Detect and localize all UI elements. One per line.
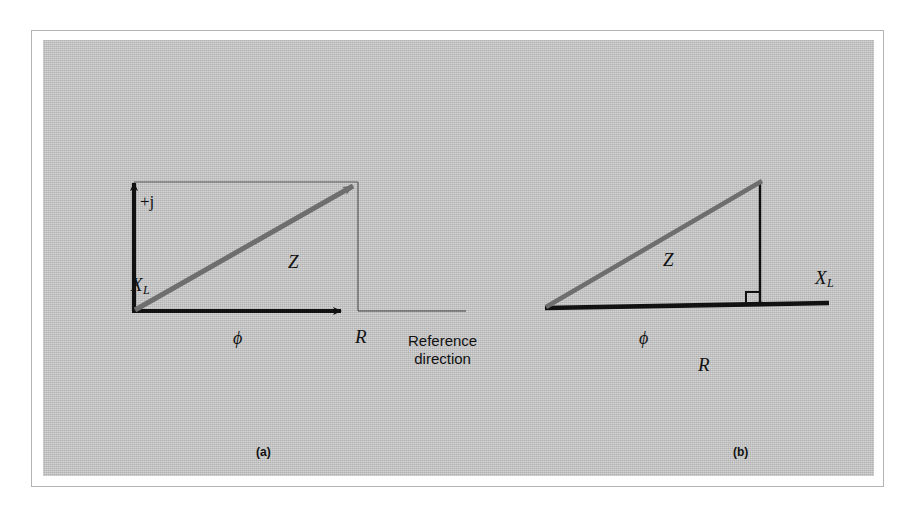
label-reactance-b: XL bbox=[815, 268, 834, 290]
label-phase-angle-a: ϕ bbox=[233, 328, 242, 349]
figure-plate: +j XL Z ϕ R Referencedirection Z ϕ R XL … bbox=[43, 40, 874, 476]
diagram-canvas bbox=[43, 40, 874, 476]
caption-a: (a) bbox=[256, 445, 271, 459]
label-phase-angle-b: ϕ bbox=[639, 328, 648, 349]
figure-root: +j XL Z ϕ R Referencedirection Z ϕ R XL … bbox=[0, 0, 917, 520]
label-reactance-a: XL bbox=[131, 275, 150, 297]
caption-b: (b) bbox=[733, 445, 748, 459]
label-resistance-b: R bbox=[698, 355, 710, 374]
vector-impedance-b bbox=[546, 181, 762, 307]
triangle-base-r bbox=[545, 303, 829, 308]
diagram-a-group bbox=[132, 182, 466, 311]
label-impedance-a: Z bbox=[288, 252, 299, 271]
label-impedance-b: Z bbox=[663, 250, 674, 269]
label-reference-direction: Referencedirection bbox=[408, 332, 477, 367]
vector-impedance-a bbox=[135, 186, 353, 310]
label-imaginary-axis: +j bbox=[140, 192, 154, 212]
label-resistance-a: R bbox=[355, 327, 367, 346]
diagram-b-group bbox=[545, 181, 829, 308]
